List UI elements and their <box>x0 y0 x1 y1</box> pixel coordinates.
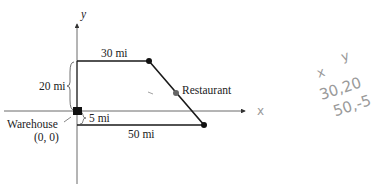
x-axis-label: x <box>257 104 264 118</box>
label-warehouse-coords: (0, 0) <box>34 131 59 144</box>
end-point-dot <box>201 122 207 128</box>
label-warehouse: Warehouse <box>7 118 58 130</box>
y-axis-label: y <box>80 8 87 21</box>
svg-text:x: x <box>315 64 327 81</box>
label-20mi: 20 mi <box>39 80 66 92</box>
handwritten-notes: x y 30,20 50,-5 <box>309 46 374 123</box>
turn-point-dot <box>146 58 152 64</box>
route-diagram: y 30 mi 20 mi 5 mi 50 mi Restaurant Ware… <box>0 0 382 186</box>
restaurant-dot <box>173 90 179 96</box>
label-5mi: 5 mi <box>89 112 110 124</box>
label-50mi: 50 mi <box>128 128 155 140</box>
brace-20mi <box>67 62 74 110</box>
svg-text:y: y <box>339 48 351 65</box>
warehouse-marker <box>73 107 82 115</box>
label-30mi: 30 mi <box>101 47 128 59</box>
label-restaurant: Restaurant <box>182 84 232 96</box>
